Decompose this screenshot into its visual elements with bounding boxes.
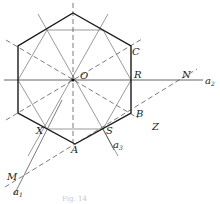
label-C: C: [132, 46, 140, 57]
label-a3: a3: [113, 139, 123, 151]
label-R: R: [133, 69, 142, 80]
label-B: B: [135, 108, 143, 119]
label-O: O: [80, 70, 88, 81]
label-a2: a2: [205, 75, 215, 87]
label-A: A: [70, 144, 78, 155]
label-X: X: [35, 125, 44, 136]
geometry-diagram: O C R N a2 B Z S a3 X A M a1 Fig. 14: [0, 0, 220, 204]
center-point-O: [71, 78, 74, 81]
label-M: M: [6, 171, 18, 182]
label-Z: Z: [151, 121, 160, 132]
label-a1: a1: [13, 186, 23, 198]
label-N: N: [181, 69, 192, 80]
figure-caption: Fig. 14: [62, 195, 87, 203]
dashed-line-MN: [5, 69, 197, 187]
label-S: S: [106, 125, 113, 136]
